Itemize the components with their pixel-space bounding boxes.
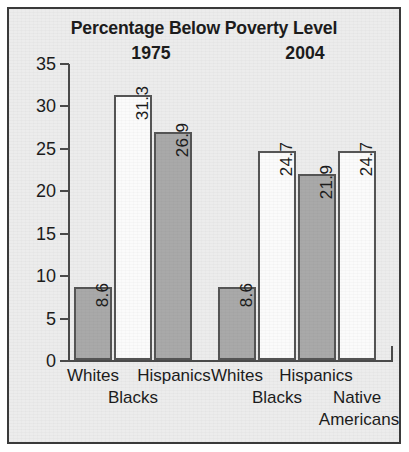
category-label: Native	[321, 388, 393, 408]
category-label: Whites	[201, 366, 273, 386]
bar[interactable]: 21.9	[298, 174, 336, 360]
bar-value-label: 26.9	[173, 123, 193, 157]
category-label: Hispanics	[270, 366, 362, 386]
bar-value-label: 8.6	[93, 283, 113, 308]
bar-value-label: 24.7	[357, 142, 377, 176]
bar-value-label: 24.7	[277, 142, 297, 176]
bar-value-label: 31.3	[133, 86, 153, 120]
category-label: Blacks	[241, 388, 313, 408]
category-label: Americans	[313, 410, 401, 430]
bar-value-label: 8.6	[237, 283, 257, 308]
plot-area: 05101520253035 8.631.326.98.624.721.924.…	[9, 9, 401, 444]
bar[interactable]: 8.6	[218, 287, 256, 360]
y-tick-mark-0	[60, 360, 69, 362]
chart-frame: Percentage Below Poverty Level 1975 2004…	[7, 7, 401, 444]
bar[interactable]: 24.7	[258, 151, 296, 360]
bar[interactable]: 31.3	[114, 95, 152, 360]
x-axis-line	[68, 360, 393, 362]
bar[interactable]: 26.9	[154, 132, 192, 360]
bar[interactable]: 24.7	[338, 151, 376, 360]
bars-layer: 8.631.326.98.624.721.924.7	[9, 9, 401, 360]
category-label: Whites	[57, 366, 129, 386]
category-label: Blacks	[97, 388, 169, 408]
bar[interactable]: 8.6	[74, 287, 112, 360]
bar-value-label: 21.9	[317, 165, 337, 199]
